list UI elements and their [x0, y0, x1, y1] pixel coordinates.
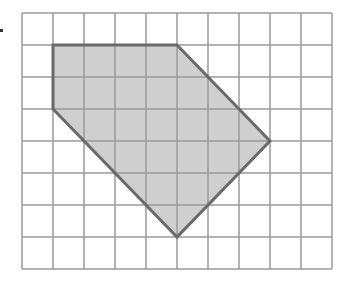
grid-diagram [0, 0, 340, 281]
